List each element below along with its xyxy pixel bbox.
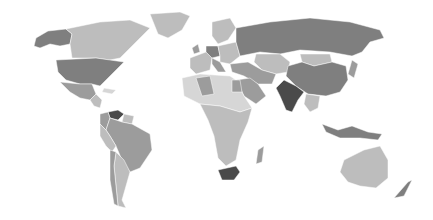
region-western-europe[interactable]: [190, 52, 212, 74]
region-scandinavia[interactable]: [212, 18, 236, 44]
region-indonesia[interactable]: [322, 124, 382, 140]
region-uk[interactable]: [192, 44, 200, 54]
region-russia[interactable]: [236, 18, 384, 56]
region-australia[interactable]: [340, 146, 388, 188]
region-caribbean[interactable]: [102, 88, 116, 94]
region-new-zealand[interactable]: [394, 180, 412, 198]
region-central-africa[interactable]: [200, 104, 252, 166]
region-south-africa[interactable]: [218, 166, 240, 180]
region-alaska[interactable]: [34, 29, 72, 48]
region-mexico[interactable]: [60, 82, 96, 100]
world-choropleth-map: [0, 0, 433, 220]
region-madagascar[interactable]: [256, 146, 264, 164]
region-canada[interactable]: [66, 20, 150, 60]
region-egypt[interactable]: [232, 80, 242, 92]
region-korea-japan[interactable]: [348, 60, 358, 78]
region-southeast-asia[interactable]: [304, 94, 320, 112]
region-greenland[interactable]: [150, 12, 190, 38]
region-united-states[interactable]: [56, 58, 124, 86]
